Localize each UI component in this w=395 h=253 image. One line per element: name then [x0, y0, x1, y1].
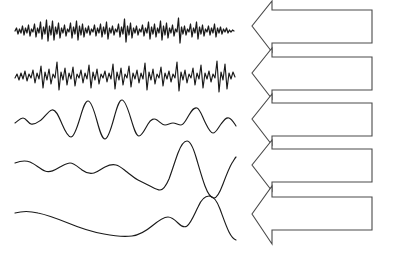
- band-arrow-beta[interactable]: [252, 48, 372, 99]
- band-arrow-delta[interactable]: [252, 186, 372, 244]
- band-arrow-theta[interactable]: [252, 140, 372, 191]
- band-arrow-alpha[interactable]: [252, 94, 372, 145]
- eeg-frequency-bands-figure: Gamma(>30Hz) Beta(12~30Hz) Alpha(8~12Hz)…: [0, 0, 395, 253]
- band-arrow-gamma[interactable]: [252, 1, 372, 52]
- eeg-band-arrows-group: [0, 0, 395, 253]
